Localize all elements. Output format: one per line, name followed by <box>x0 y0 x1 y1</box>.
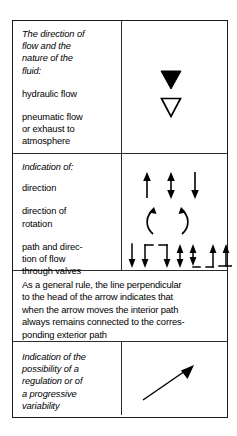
cell-regulation-text: Indication of the possibility of a regul… <box>13 342 122 415</box>
curved-rotation-arrows-icon <box>141 206 201 236</box>
paragraph-line-4: always remains connected to the corres- <box>22 316 219 328</box>
paragraph-line-5: ponding exterior path <box>22 329 219 341</box>
heading-regulation-line-3: regulation or of <box>22 375 115 387</box>
hollow-down-triangle-icon <box>160 97 182 118</box>
symbol-reference-table: The direction of flow and the nature of … <box>12 20 228 418</box>
cell-general-rule-note: As a general rule, the line perpendicula… <box>13 271 227 341</box>
heading-flow-line-4: fluid: <box>22 65 115 77</box>
heading-regulation-line-4: a progressive <box>22 388 115 400</box>
table-row-general-rule: As a general rule, the line perpendicula… <box>13 270 227 341</box>
table-row-indication-of: Indication of: direction direction of ro… <box>13 153 227 270</box>
spacer <box>22 173 115 182</box>
spacer <box>22 100 115 111</box>
table-row-flow-direction: The direction of flow and the nature of … <box>13 21 227 153</box>
heading-regulation-line-5: variability <box>22 400 115 412</box>
symbol-groups-indication <box>122 154 227 270</box>
straight-arrows-group-icon <box>140 171 208 199</box>
label-pneumatic-line-3: atmosphere <box>22 135 115 147</box>
heading-regulation-line-1: Indication of the <box>22 351 115 363</box>
label-valves-line-1: path and direc- <box>22 241 115 253</box>
label-pneumatic-line-1: pneumatic flow <box>22 111 115 123</box>
heading-regulation-variability: Indication of the possibility of a regul… <box>22 351 115 412</box>
label-direction-of-rotation: direction of rotation <box>22 205 115 229</box>
valve-path-arrows-icon <box>127 242 232 270</box>
label-rotation-line-1: direction of <box>22 205 115 217</box>
paragraph-general-rule: As a general rule, the line perpendicula… <box>22 279 219 341</box>
paragraph-line-1: As a general rule, the line perpendicula… <box>22 279 219 291</box>
figure-page: The direction of flow and the nature of … <box>0 0 237 436</box>
paragraph-line-2: to the head of the arrow indicates that <box>22 291 219 303</box>
spacer <box>22 77 115 88</box>
diagonal-arrow-icon <box>138 361 200 405</box>
filled-down-triangle-icon <box>160 70 182 90</box>
label-pneumatic-line-2: or exhaust to <box>22 123 115 135</box>
spacer <box>22 194 115 205</box>
table-row-regulation-variability: Indication of the possibility of a regul… <box>13 341 227 415</box>
label-hydraulic-flow: hydraulic flow <box>22 88 115 100</box>
heading-flow-line-2: flow and the <box>22 40 115 52</box>
symbol-group-fluid-triangles <box>122 21 227 153</box>
cell-indication-text: Indication of: direction direction of ro… <box>13 154 122 270</box>
cell-regulation-symbol <box>122 342 227 415</box>
heading-regulation-line-2: possibility of a <box>22 363 115 375</box>
label-valves-line-2: tion of flow <box>22 253 115 265</box>
label-rotation-line-2: rotation <box>22 218 115 230</box>
heading-flow-line-3: nature of the <box>22 52 115 64</box>
heading-indication-of: Indication of: <box>22 161 115 173</box>
symbol-group-diagonal-arrow <box>122 342 227 415</box>
spacer <box>22 230 115 241</box>
heading-flow-direction: The direction of flow and the nature of … <box>22 28 115 77</box>
cell-indication-symbols <box>122 154 227 270</box>
heading-flow-line-1: The direction of <box>22 28 115 40</box>
label-direction: direction <box>22 182 115 194</box>
paragraph-line-3: when the arrow moves the interior path <box>22 304 219 316</box>
cell-flow-direction-symbols <box>122 21 227 153</box>
label-pneumatic-flow: pneumatic flow or exhaust to atmosphere <box>22 111 115 148</box>
cell-flow-direction-text: The direction of flow and the nature of … <box>13 21 122 153</box>
